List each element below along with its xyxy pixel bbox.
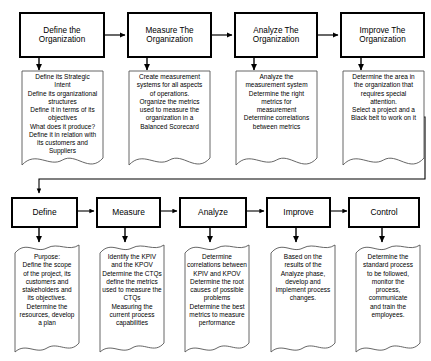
stage-box-measure[interactable]: Measure [96, 197, 161, 228]
stage-label: Improve The Organization [359, 26, 405, 45]
dmaic-process-diagram: Define the Organization Measure The Orga… [0, 0, 431, 361]
detail-shape-measure: Identify the KPIV and the KPOV Determine… [97, 242, 167, 356]
stage-box-analyze[interactable]: Analyze [179, 197, 247, 228]
detail-text: Identify the KPIV and the KPOV Determine… [97, 253, 167, 327]
detail-text: Define its Strategic Intent Define its o… [21, 73, 104, 156]
stage-box-measure-the-organization[interactable]: Measure The Organization [127, 12, 212, 58]
detail-shape-define-the-organization: Define its Strategic Intent Define its o… [21, 70, 104, 173]
detail-text: Create measurement systems for all aspec… [128, 73, 211, 131]
stage-label: Measure [112, 208, 145, 218]
stage-box-improve[interactable]: Improve [266, 197, 331, 228]
stage-label: Define [32, 208, 56, 218]
detail-shape-control: Determine the standard process to be fol… [353, 242, 423, 356]
detail-shape-improve-the-organization: Determine the area in the organization t… [342, 70, 425, 173]
detail-text: Determine the standard process to be fol… [353, 253, 423, 319]
stage-label: Define the Organization [39, 26, 85, 45]
detail-shape-improve: Based on the results of the Analyze phas… [268, 242, 338, 356]
stage-box-define[interactable]: Define [11, 197, 78, 228]
stage-box-analyze-the-organization[interactable]: Analyze The Organization [234, 12, 318, 58]
stage-label: Analyze [198, 208, 228, 218]
detail-text: Determine the area in the organization t… [342, 73, 425, 123]
stage-label: Control [371, 208, 398, 218]
stage-box-define-the-organization[interactable]: Define the Organization [19, 12, 105, 58]
detail-shape-analyze: Determine correlations between KPIV and … [182, 242, 252, 356]
detail-text: Based on the results of the Analyze phas… [268, 253, 338, 303]
detail-text: Determine correlations between KPIV and … [182, 253, 252, 327]
stage-label: Measure The Organization [145, 26, 193, 45]
stage-box-improve-the-organization[interactable]: Improve The Organization [340, 12, 425, 58]
detail-shape-measure-the-organization: Create measurement systems for all aspec… [128, 70, 211, 173]
stage-label: Analyze The Organization [253, 26, 299, 45]
detail-shape-analyze-the-organization: Analyze the measurement system Determine… [235, 70, 318, 173]
detail-text: Analyze the measurement system Determine… [235, 73, 318, 131]
stage-box-control[interactable]: Control [348, 197, 420, 228]
detail-shape-define: Purpose: Define the scope of the project… [12, 242, 82, 356]
detail-text: Purpose: Define the scope of the project… [12, 253, 82, 327]
stage-label: Improve [283, 208, 313, 218]
